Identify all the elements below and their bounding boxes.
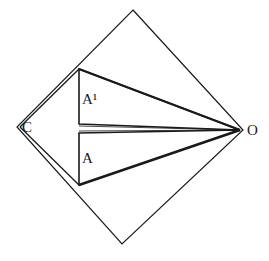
label-a: A (82, 150, 93, 166)
triangle-a-hypotenuse (79, 130, 240, 185)
diagram-canvas: C O A¹ A (0, 0, 269, 261)
label-c: C (22, 119, 32, 135)
inner-kite-lower (20, 127, 79, 185)
label-o: O (247, 122, 258, 138)
label-a-prime: A¹ (82, 91, 97, 107)
